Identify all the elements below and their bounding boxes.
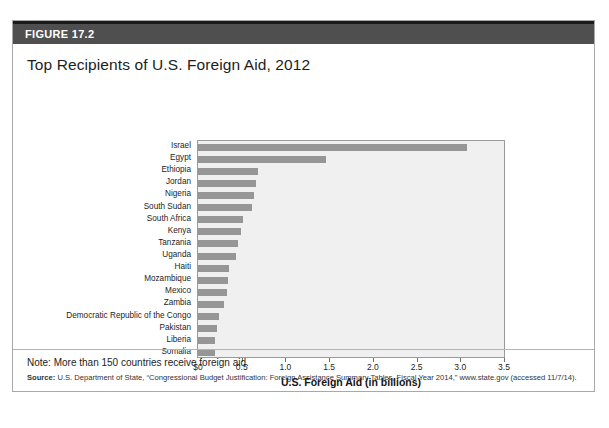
bar-row: [198, 323, 504, 335]
y-axis-label: South Sudan: [13, 201, 194, 213]
figure-header-band: FIGURE 17.2: [13, 21, 594, 44]
y-axis-label: Kenya: [13, 225, 194, 237]
bar-row: [198, 274, 504, 286]
y-axis-label: Mozambique: [13, 273, 194, 285]
bar: [198, 144, 467, 151]
bar-row: [198, 262, 504, 274]
source-citation: U.S. Department of State, “Congressional…: [55, 373, 576, 382]
figure-card: FIGURE 17.2 Top Recipients of U.S. Forei…: [12, 20, 595, 392]
figure-number-label: FIGURE 17.2: [25, 28, 94, 40]
y-axis-label: Zambia: [13, 297, 194, 309]
note-text: Note: More than 150 countries receive fo…: [27, 357, 580, 368]
bar: [198, 337, 215, 344]
plot-area: [197, 140, 505, 358]
source-text: Source: U.S. Department of State, “Congr…: [27, 373, 580, 383]
bar-row: [198, 165, 504, 177]
bar-row: [198, 189, 504, 201]
y-axis-label: Israel: [13, 140, 194, 152]
bar: [198, 325, 217, 332]
y-axis-label: South Africa: [13, 213, 194, 225]
bar-row: [198, 202, 504, 214]
bar: [198, 168, 258, 175]
bar-row: [198, 286, 504, 298]
bar-row: [198, 238, 504, 250]
y-axis-label: Egypt: [13, 152, 194, 164]
bar: [198, 301, 224, 308]
bar-row: [198, 214, 504, 226]
y-axis-label: Mexico: [13, 285, 194, 297]
bar: [198, 253, 236, 260]
y-axis-label: Haiti: [13, 261, 194, 273]
bar: [198, 228, 241, 235]
y-axis-label: Democratic Republic of the Congo: [13, 310, 194, 322]
bar: [198, 180, 256, 187]
bar-row: [198, 153, 504, 165]
y-axis-label: Liberia: [13, 334, 194, 346]
bar: [198, 204, 252, 211]
bar: [198, 277, 228, 284]
bar-row: [198, 141, 504, 153]
y-axis-label: Tanzania: [13, 237, 194, 249]
bar-row: [198, 311, 504, 323]
bar: [198, 156, 326, 163]
y-axis-label: Pakistan: [13, 322, 194, 334]
bar: [198, 313, 219, 320]
bar-row: [198, 226, 504, 238]
y-axis-label: Jordan: [13, 176, 194, 188]
bar-row: [198, 177, 504, 189]
source-label: Source:: [27, 373, 55, 382]
bar-row: [198, 335, 504, 347]
y-axis-label: Nigeria: [13, 188, 194, 200]
y-axis-label: Uganda: [13, 249, 194, 261]
bar: [198, 240, 238, 247]
figure-title: Top Recipients of U.S. Foreign Aid, 2012: [13, 44, 594, 78]
bar: [198, 216, 243, 223]
bar: [198, 289, 227, 296]
bar: [198, 265, 229, 272]
figure-footer: Note: More than 150 countries receive fo…: [13, 349, 594, 391]
bar-row: [198, 298, 504, 310]
y-axis-label: Ethiopia: [13, 164, 194, 176]
chart-region: IsraelEgyptEthiopiaJordanNigeriaSouth Su…: [13, 78, 594, 330]
bar-row: [198, 250, 504, 262]
y-axis-category-labels: IsraelEgyptEthiopiaJordanNigeriaSouth Su…: [13, 140, 194, 358]
bar: [198, 192, 254, 199]
